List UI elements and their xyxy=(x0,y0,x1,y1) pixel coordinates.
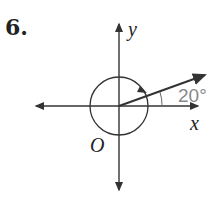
y-axis-label: y xyxy=(126,18,137,41)
angle-label: 20° xyxy=(178,85,207,106)
x-axis-label: x xyxy=(189,112,199,134)
angle-arc xyxy=(160,92,162,106)
angle-diagram: 20° y x O xyxy=(0,0,210,199)
origin-label: O xyxy=(90,134,104,156)
rotation-arrow-icon xyxy=(137,86,147,93)
